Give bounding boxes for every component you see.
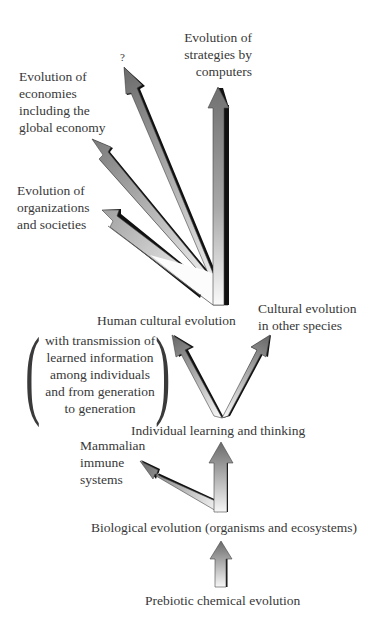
node-individual-learning-line-1: Individual learning and thinking: [131, 422, 305, 439]
arrow-to-biological: [210, 541, 232, 587]
v-arrows: [172, 335, 271, 418]
node-organizations-line-1: Evolution of: [17, 182, 89, 199]
node-economies: Evolution of economies including the glo…: [19, 68, 106, 136]
node-unknown-line-1: ?: [120, 49, 125, 66]
node-immune: Mammalian immune systems: [80, 437, 145, 488]
node-organizations: Evolution of organizations and societies: [17, 182, 89, 233]
arrow-to-immune: [140, 460, 223, 512]
node-biological: Biological evolution (organisms and ecos…: [91, 519, 357, 536]
node-prebiotic-line-1: Prebiotic chemical evolution: [145, 592, 300, 609]
node-organizations-line-3: and societies: [17, 216, 89, 233]
node-cultural-other: Cultural evolution in other species: [258, 300, 357, 334]
node-cultural-other-line-1: Cultural evolution: [258, 300, 357, 317]
node-economies-line-3: including the: [19, 102, 106, 119]
paren-close: ): [155, 323, 170, 423]
node-computers-line-2: strategies by: [176, 46, 252, 63]
node-cultural-other-line-2: in other species: [258, 317, 357, 334]
note-line-5: to generation: [38, 400, 162, 417]
node-immune-line-1: Mammalian: [80, 437, 145, 454]
bio-arrows: [140, 442, 233, 512]
fan-arrows: [92, 67, 229, 305]
node-economies-line-4: global economy: [19, 119, 106, 136]
node-biological-line-1: Biological evolution (organisms and ecos…: [91, 519, 357, 536]
node-economies-line-1: Evolution of: [19, 68, 106, 85]
node-economies-line-2: economies: [19, 85, 106, 102]
node-computers-line-1: Evolution of: [176, 29, 252, 46]
note-line-1: with transmission of: [38, 332, 162, 349]
node-prebiotic: Prebiotic chemical evolution: [145, 592, 300, 609]
node-computers-line-3: computers: [176, 63, 252, 80]
arrow-to-human-cultural: [172, 335, 224, 418]
arrow-to-cultural-other: [222, 335, 271, 418]
node-immune-line-3: systems: [80, 471, 145, 488]
node-transmission-note: with transmission of learned information…: [38, 332, 162, 417]
note-line-3: among individuals: [38, 366, 162, 383]
note-line-2: learned information: [38, 349, 162, 366]
node-individual-learning: Individual learning and thinking: [131, 422, 305, 439]
node-unknown: ?: [120, 49, 125, 66]
node-immune-line-2: immune: [80, 454, 145, 471]
note-line-4: and from generation: [38, 383, 162, 400]
node-organizations-line-2: organizations: [17, 199, 89, 216]
node-computers: Evolution of strategies by computers: [176, 29, 252, 80]
